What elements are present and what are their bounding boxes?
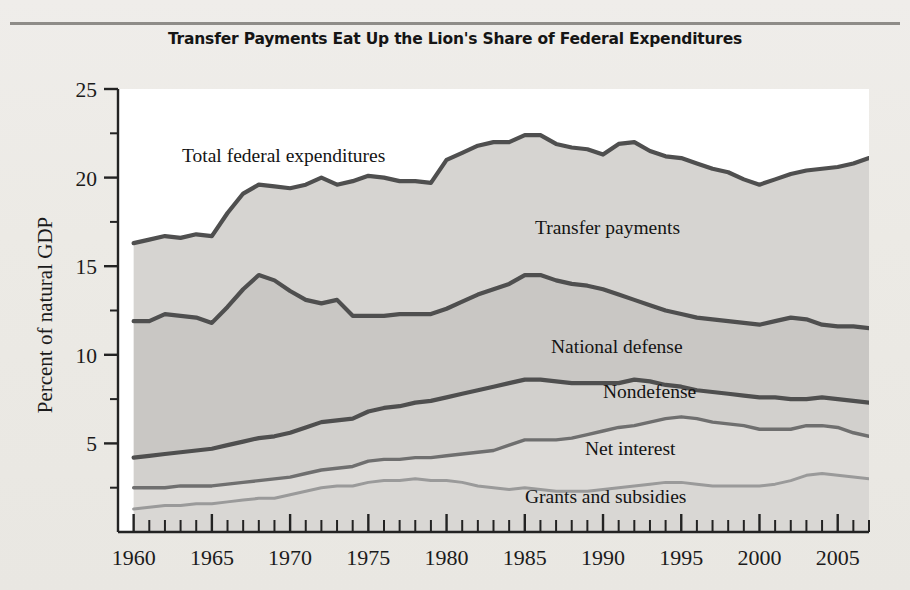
x-tick-label: 2000 bbox=[737, 545, 781, 570]
series-label-interest: Net interest bbox=[585, 438, 676, 459]
series-label-grants: Grants and subsidies bbox=[525, 486, 686, 507]
x-tick-label: 1995 bbox=[659, 545, 703, 570]
x-tick-label: 2005 bbox=[816, 545, 860, 570]
x-tick-label: 1980 bbox=[425, 545, 469, 570]
x-tick-labels: 1960196519701975198019851990199520002005 bbox=[112, 545, 860, 570]
x-tick-label: 1990 bbox=[581, 545, 625, 570]
x-tick-label: 1975 bbox=[346, 545, 390, 570]
x-tick-label: 1970 bbox=[268, 545, 312, 570]
y-tick-label: 15 bbox=[76, 255, 98, 279]
series-label-transfer: Transfer payments bbox=[535, 217, 680, 238]
y-axis-ticks bbox=[104, 89, 118, 488]
x-tick-label: 1985 bbox=[503, 545, 547, 570]
series-label-defense: National defense bbox=[551, 336, 683, 357]
y-tick-label: 10 bbox=[76, 344, 98, 368]
stacked-area-chart: Percent of natural GDP 510152025 1960196… bbox=[0, 0, 910, 590]
y-tick-label: 5 bbox=[86, 432, 97, 456]
y-tick-label: 20 bbox=[76, 167, 98, 191]
series-label-total: Total federal expenditures bbox=[182, 145, 385, 166]
y-axis-label: Percent of natural GDP bbox=[33, 217, 57, 414]
x-tick-label: 1965 bbox=[190, 545, 234, 570]
y-tick-label: 25 bbox=[76, 78, 98, 102]
chart-area: Percent of natural GDP 510152025 1960196… bbox=[0, 0, 910, 590]
series-label-nondefense: Nondefense bbox=[603, 381, 696, 402]
y-tick-labels: 510152025 bbox=[76, 78, 98, 456]
x-tick-label: 1960 bbox=[112, 545, 156, 570]
